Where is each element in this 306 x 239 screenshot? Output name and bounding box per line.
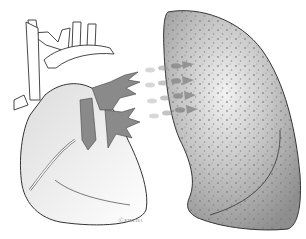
lung [164,11,301,230]
pulmonary-veins [80,72,140,150]
artist-signature: Ⓒ KINEHA [118,216,142,223]
heart-lung-illustration [0,0,306,239]
